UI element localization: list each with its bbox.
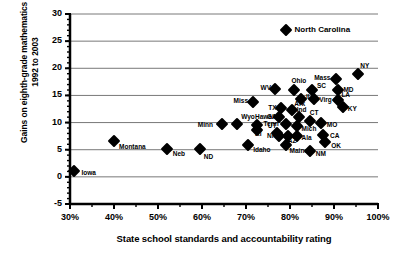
scatter-chart: IowaMontanaNebNDMinnWyoHawaiiRIIdahoUTNH… [0,0,398,260]
x-axis-title: State school standards and accountabilit… [70,233,378,244]
data-point-label: RI [255,130,262,137]
minor-ticks [67,14,378,207]
x-tick-label: 40% [94,212,134,222]
data-point-label: WV [261,84,271,91]
x-tick-label: 100% [358,212,398,222]
x-tick-label: 60% [182,212,222,222]
data-point-label: KY [348,105,357,112]
data-point-label: CT [310,109,319,116]
y-axis-title-wrapper: Gains on eighth-grade mathematics from 1… [15,0,45,152]
y-axis-title: Gains on eighth-grade mathematics from 1… [19,0,41,152]
data-point-label: OK [331,142,341,149]
x-tick-label: 30% [50,212,90,222]
data-point-label: Ohio [291,77,306,84]
data-point-label: Neb [173,150,185,157]
data-point-label: Virg [319,96,332,103]
y-tick-label: 0 [36,171,62,181]
x-tick-label: 50% [138,212,178,222]
data-point-label: LA [341,91,350,98]
data-point-label: Montana [119,143,146,150]
data-point-label: CA [330,132,339,139]
data-point-label: NY [360,62,369,69]
data-point-label: Minn [198,121,213,128]
x-tick-label: 90% [314,212,354,222]
data-point-label: Idaho [253,146,270,153]
data-point-label: TX [268,104,276,111]
x-tick-label: 70% [226,212,266,222]
data-point-label: ND [204,153,213,160]
data-point-label: North Carolina [295,26,351,33]
data-point-label: Iowa [81,169,95,176]
y-tick-label: -5 [36,198,62,208]
major-ticks [65,14,378,209]
data-point-label: NH [267,132,276,139]
x-tick-label: 80% [270,212,310,222]
data-point-label: Ala [302,134,312,141]
data-point-label: Miss [234,97,248,104]
data-point-label: GA [267,113,277,120]
data-point-label: Mass [314,74,330,81]
data-point-label: Wyo [241,113,255,120]
data-point-label: MO [327,121,337,128]
data-point-label: NM [316,150,326,157]
data-point-label: SC [317,82,326,89]
